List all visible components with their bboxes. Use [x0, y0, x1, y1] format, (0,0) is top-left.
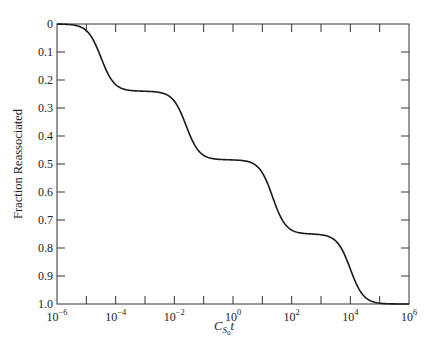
y-tick-label: 1.0 [38, 297, 53, 311]
y-axis-title: Fraction Reassociated [11, 108, 25, 219]
y-tick-label: 0.3 [38, 101, 53, 115]
reassociation-chart: 00.10.20.30.40.50.60.70.80.91.0 10−610−4… [0, 0, 440, 357]
reassociation-curve [57, 24, 409, 304]
x-tick-label: 106 [401, 307, 417, 324]
y-tick-label: 0.6 [38, 185, 53, 199]
x-tick-label: 102 [284, 307, 300, 324]
x-tick-label: 10−6 [46, 307, 67, 324]
y-tick-label: 0.9 [38, 269, 53, 283]
x-axis-title-suffix: t [230, 319, 234, 333]
y-axis-ticks: 00.10.20.30.40.50.60.70.80.91.0 [38, 17, 409, 311]
y-tick-label: 0 [47, 17, 53, 31]
x-tick-label: 10−4 [105, 307, 127, 324]
y-tick-label: 0.4 [38, 129, 53, 143]
x-tick-label: 104 [342, 307, 359, 324]
y-tick-label: 0.5 [38, 157, 53, 171]
x-axis-ticks: 10−610−410−2100102104106 [46, 24, 417, 324]
y-tick-label: 0.8 [38, 241, 53, 255]
y-tick-label: 0.7 [38, 213, 53, 227]
y-tick-label: 0.1 [38, 45, 53, 59]
x-tick-label: 10−2 [164, 307, 185, 324]
plot-frame [57, 24, 409, 304]
y-tick-label: 0.2 [38, 73, 53, 87]
